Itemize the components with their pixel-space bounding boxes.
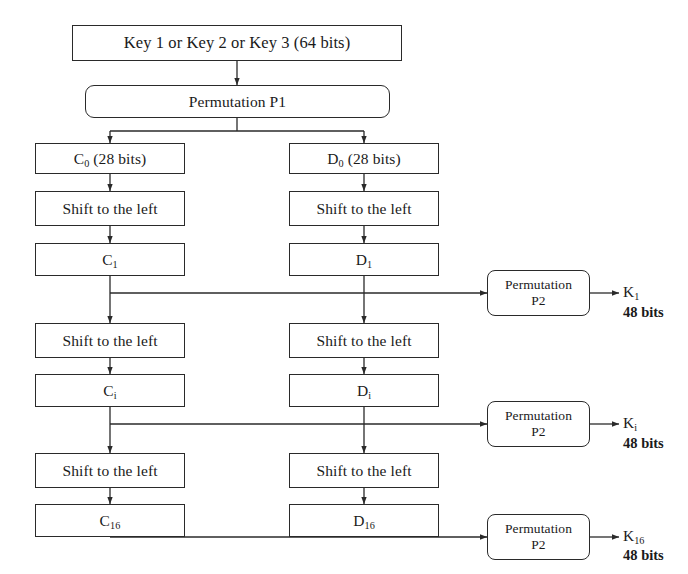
shift-left-label: Shift to the left [316,462,411,479]
shift-left-label: Shift to the left [62,200,157,217]
subkey-label-k16: K16 [623,527,644,544]
permutation-p1-label: Permutation P1 [189,93,286,110]
register-d16-box: D16 [289,504,439,537]
shift-left-label: Shift to the left [62,332,157,349]
shift-left-box-d-round1: Shift to the left [289,191,439,226]
permutation-p2-line1: Permutation [505,277,572,293]
register-di-label: Di [357,382,371,399]
register-c1-label: C1 [102,251,118,268]
register-d1-box: D1 [289,243,439,276]
register-di-box: Di [289,374,439,407]
shift-left-box-c-round16: Shift to the left [35,453,185,488]
register-d1-label: D1 [356,251,373,268]
register-ci-box: Ci [35,374,185,407]
des-key-schedule-diagram: Key 1 or Key 2 or Key 3 (64 bits) Permut… [0,0,688,574]
permutation-p2-line2: P2 [531,537,545,553]
subkey-bits-k1: 48 bits [623,305,664,321]
permutation-p2-line2: P2 [531,293,545,309]
shift-left-box-c-round1: Shift to the left [35,191,185,226]
shift-left-label: Shift to the left [316,200,411,217]
subkey-label-k1: K1 [623,283,639,300]
register-c1-box: C1 [35,243,185,276]
shift-left-label: Shift to the left [316,332,411,349]
shift-left-label: Shift to the left [62,462,157,479]
register-d0-label: D0 (28 bits) [327,150,400,167]
permutation-p2-box-round1: Permutation P2 [487,270,590,316]
key-input-label: Key 1 or Key 2 or Key 3 (64 bits) [124,34,350,52]
subkey-bits-ki: 48 bits [623,436,664,452]
register-c16-label: C16 [100,512,121,529]
register-d0-box: D0 (28 bits) [289,143,439,174]
shift-left-box-d-roundi: Shift to the left [289,323,439,358]
register-d16-label: D16 [353,512,375,529]
permutation-p2-line1: Permutation [505,521,572,537]
register-c0-label: C0 (28 bits) [74,150,147,167]
subkey-label-ki: Ki [623,414,637,431]
shift-left-box-d-round16: Shift to the left [289,453,439,488]
permutation-p2-line2: P2 [531,424,545,440]
permutation-p2-box-round16: Permutation P2 [487,514,590,560]
register-ci-label: Ci [103,382,116,399]
shift-left-box-c-roundi: Shift to the left [35,323,185,358]
permutation-p1-box: Permutation P1 [85,85,390,118]
permutation-p2-box-roundi: Permutation P2 [487,401,590,447]
register-c16-box: C16 [35,504,185,537]
subkey-bits-k16: 48 bits [623,548,664,564]
key-input-box: Key 1 or Key 2 or Key 3 (64 bits) [72,25,402,61]
permutation-p2-line1: Permutation [505,408,572,424]
register-c0-box: C0 (28 bits) [35,143,185,174]
